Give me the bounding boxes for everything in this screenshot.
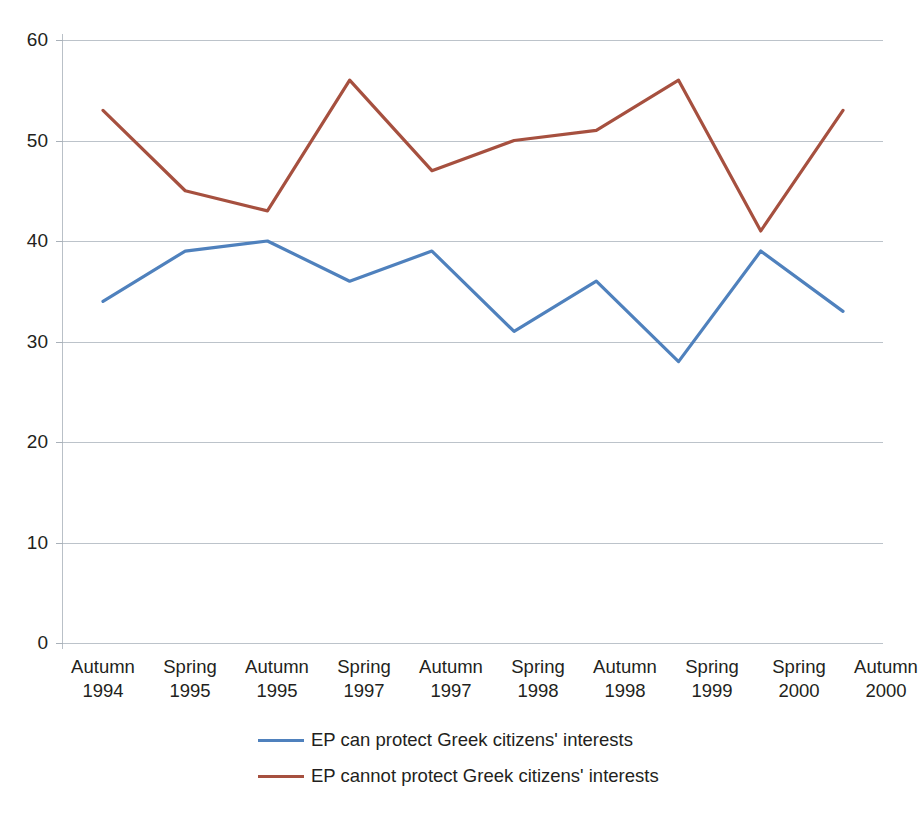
y-axis-tick-labels: 60 50 40 30 20 10 0	[0, 0, 48, 816]
legend-item-ep-can-protect: EP can protect Greek citizens' interests	[0, 722, 904, 758]
plot-area	[63, 40, 883, 643]
y-tick-label-30: 30	[2, 332, 48, 351]
y-tick-label-20: 20	[2, 432, 48, 451]
y-tick-mark-50	[56, 141, 63, 142]
gridline-0	[63, 643, 883, 644]
y-tick-mark-40	[56, 241, 63, 242]
x-axis-tick-labels: Autumn 1994 Spring 1995 Autumn 1995 Spri…	[63, 655, 883, 715]
legend-label-ep-cannot-protect: EP cannot protect Greek citizens' intere…	[311, 766, 659, 786]
y-tick-mark-20	[56, 442, 63, 443]
y-tick-label-50: 50	[2, 131, 48, 150]
x-tick-label-9: Autumn 2000	[834, 655, 922, 703]
y-tick-mark-60	[56, 40, 63, 41]
legend-color-swatch-blue	[258, 739, 304, 742]
y-tick-mark-30	[56, 342, 63, 343]
series-line-ep-cannot-protect	[103, 80, 843, 231]
y-tick-label-0: 0	[2, 633, 48, 652]
series-line-ep-can-protect	[103, 241, 843, 362]
y-tick-mark-0	[56, 643, 63, 644]
y-tick-label-60: 60	[2, 30, 48, 49]
y-tick-mark-10	[56, 543, 63, 544]
chart-legend: EP can protect Greek citizens' interests…	[0, 722, 904, 794]
series-plot	[63, 40, 883, 643]
legend-color-swatch-red	[258, 775, 304, 778]
x-tick-year-9: 2000	[834, 679, 922, 703]
x-tick-season-9: Autumn	[834, 655, 922, 679]
legend-label-ep-can-protect: EP can protect Greek citizens' interests	[311, 730, 633, 750]
y-tick-label-10: 10	[2, 533, 48, 552]
y-tick-label-40: 40	[2, 231, 48, 250]
legend-item-ep-cannot-protect: EP cannot protect Greek citizens' intere…	[0, 758, 904, 794]
